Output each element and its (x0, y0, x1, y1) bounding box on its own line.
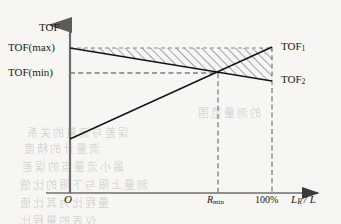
curve-label-tof-1: TOF1 (281, 41, 305, 53)
curve-label-tof-2-sub: 2 (302, 77, 306, 86)
x-axis-label-sub: R (297, 197, 302, 206)
y-tick-label-tof-min: TOF(min) (8, 67, 53, 78)
curve-label-tof-1-sub: 1 (302, 44, 306, 53)
x-tick-label-r-min-sub: min (213, 198, 224, 206)
tof-range-diagram (0, 0, 341, 224)
curve-label-tof-1-main: TOF (281, 40, 302, 52)
origin-label: O (64, 194, 72, 205)
x-axis-label: LR/ L (291, 194, 316, 206)
x-tick-label-full-scale: 100% (255, 195, 278, 205)
y-axis-label: TOF (39, 22, 60, 33)
y-tick-label-tof-max: TOF(max) (8, 42, 55, 53)
curve-label-tof-2-main: TOF (281, 73, 302, 85)
x-tick-label-r-min: Rmin (207, 195, 224, 206)
curve-label-tof-2: TOF2 (281, 74, 305, 86)
x-axis-label-tail: / L (304, 193, 316, 205)
